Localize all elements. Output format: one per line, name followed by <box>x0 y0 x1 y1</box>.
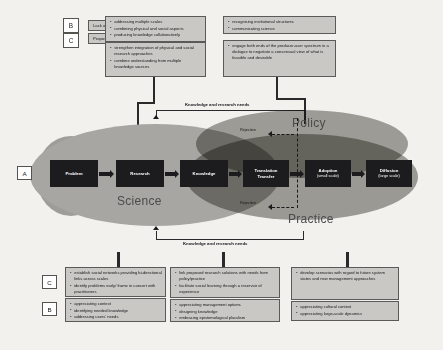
list-item: communicating science <box>228 26 332 32</box>
bottom-box-3-lower: appreciating cultural context appreciati… <box>291 301 399 321</box>
label-rejection-top: Rejection <box>240 128 256 132</box>
arrow-left-rejection-bottom <box>268 204 272 210</box>
list-item: identify problems early/ frame in concer… <box>70 283 162 295</box>
list-item: producing knowledge collaboratively <box>110 32 202 38</box>
list-item: appreciating large-scale dynamics <box>296 311 395 317</box>
diagram-canvas: B C Lack of... Proposed to... addressing… <box>0 0 443 350</box>
side-label-b: B <box>42 302 57 316</box>
connector-top-left <box>153 77 155 103</box>
bottom-box-1-upper: establish social networks providing bi-d… <box>65 267 166 297</box>
arrow-problem-to-research <box>99 172 110 176</box>
connector-bottom-2 <box>222 252 225 267</box>
chain-box-knowledge: Knowledge <box>180 160 228 187</box>
chain-box-diffusion: Diffusion (large scale) <box>366 160 412 187</box>
list-item: designing knowledge <box>175 309 276 315</box>
list-item: establish social networks providing bi-d… <box>70 270 162 282</box>
list-item: appreciating cultural context <box>296 304 395 310</box>
connector-bottom-1 <box>117 252 120 267</box>
list-item: facilitate social learning through a res… <box>175 283 276 295</box>
list-item: combining physical and social aspects <box>110 26 202 32</box>
arrow-up-feedback-top <box>153 115 159 119</box>
chain-title: Research <box>130 171 149 176</box>
chain-box-adoption: Adoption (small scale) <box>305 160 351 187</box>
side-label-a: A <box>17 166 32 180</box>
connector-top-left-h <box>138 102 155 104</box>
chain-subtitle: (small scale) <box>317 174 339 179</box>
list-item: combine understanding from multiple know… <box>110 58 202 70</box>
chain-subtitle: Transfer <box>258 174 275 179</box>
chain-subtitle: (large scale) <box>378 174 399 179</box>
list-item: engage both ends of the producer-user sp… <box>228 43 332 62</box>
bottom-box-3-upper: develop scenarios with regard to future … <box>291 267 399 300</box>
top-box-left-upper: addressing multiple scales combining phy… <box>105 16 206 42</box>
label-rejection-bottom: Rejection <box>240 201 256 205</box>
chain-box-translation-transfer: Translation Transfer <box>243 160 289 187</box>
chain-box-problem: Problem <box>50 160 98 187</box>
feedback-bottom-right-tick <box>303 231 304 240</box>
region-label-science: Science <box>117 194 162 208</box>
rejection-bottom-line <box>272 207 294 208</box>
list-item: link proposed research solutions with ne… <box>175 270 276 282</box>
arrow-adoption-to-diffusion <box>352 172 361 176</box>
top-box-left-lower: strengthen integration of physical and s… <box>105 42 206 77</box>
arrow-left-rejection-top <box>268 131 272 137</box>
label-top-feedback: Knowledge and research needs <box>185 102 249 107</box>
arrow-up-feedback-bottom <box>153 226 159 230</box>
chain-title: Problem <box>65 171 82 176</box>
connector-top-right <box>276 77 278 99</box>
bottom-box-2-lower: appreciating management options designin… <box>170 299 280 322</box>
legend-letter-c: C <box>63 33 79 48</box>
legend-letter-b: B <box>63 18 79 33</box>
list-item: embracing epistemological pluralism <box>175 315 276 321</box>
feedback-bottom-left-tick <box>156 231 157 240</box>
arrow-translation-to-adoption <box>290 172 300 176</box>
list-item: appreciating context <box>70 301 162 307</box>
arrow-research-to-knowledge <box>165 172 175 176</box>
bottom-box-1-lower: appreciating context identifying needed … <box>65 298 166 322</box>
label-bottom-feedback: Knowledge and research needs <box>183 241 247 246</box>
chain-box-research: Research <box>116 160 164 187</box>
top-box-right-upper: recognising institutional structures com… <box>223 16 336 34</box>
connector-bottom-3 <box>346 252 349 267</box>
chain-title: Knowledge <box>193 171 216 176</box>
list-item: addressing multiple scales <box>110 19 202 25</box>
rejection-top-line <box>272 134 294 135</box>
boundary-dashed-line <box>297 118 298 208</box>
top-box-right-lower: engage both ends of the producer-user sp… <box>223 40 336 77</box>
list-item: appreciating management options <box>175 302 276 308</box>
arrow-knowledge-to-translation <box>229 172 238 176</box>
bottom-box-2-upper: link proposed research solutions with ne… <box>170 267 280 298</box>
region-label-practice: Practice <box>288 212 334 226</box>
list-item: recognising institutional structures <box>228 19 332 25</box>
side-label-c: C <box>42 275 57 289</box>
list-item: identifying needed knowledge <box>70 308 162 314</box>
list-item: develop scenarios with regard to future … <box>296 270 395 282</box>
list-item: addressing users' needs <box>70 314 162 320</box>
connector-top-right-h <box>276 98 305 100</box>
list-item: strengthen integration of physical and s… <box>110 45 202 57</box>
